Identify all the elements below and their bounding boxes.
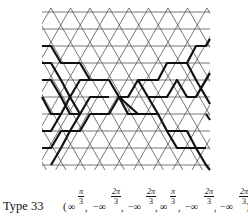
triangular-lattice-diagram xyxy=(0,0,248,185)
lattice-lines xyxy=(0,8,248,176)
open-paren: ( xyxy=(63,200,67,212)
figure-caption: Type 33 ( ∞ π3 , −∞ 2π3 , −∞ 2π3 , ∞ π3 … xyxy=(3,187,248,215)
close-paren: ) xyxy=(246,200,248,212)
type-label: Type 33 xyxy=(3,199,43,214)
